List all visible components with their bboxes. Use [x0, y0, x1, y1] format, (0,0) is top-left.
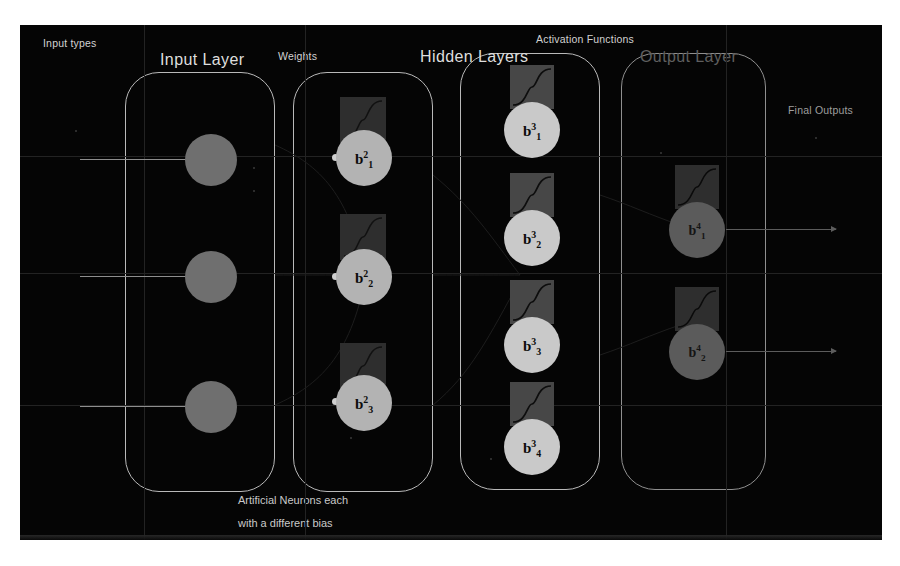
decorative-speck [660, 152, 662, 154]
weight-neuron-subscript: 1 [368, 159, 373, 170]
heading-hidden-layers: Hidden Layers [420, 48, 528, 66]
input-neuron[interactable] [185, 134, 237, 186]
hidden-neuron-subscript: 2 [536, 239, 541, 250]
hidden-neuron[interactable]: b31 [504, 102, 560, 158]
output-arrow [726, 229, 836, 230]
hidden-neuron-label: b31 [523, 124, 541, 139]
output-neuron-label: b41 [688, 224, 705, 238]
weight-neuron-label: b23 [355, 397, 373, 412]
guide-line-vertical [726, 25, 727, 540]
weight-neuron-subscript: 3 [368, 404, 373, 415]
output-layer-group [621, 53, 766, 490]
label-activation-functions: Activation Functions [536, 33, 634, 45]
decorative-speck [75, 130, 77, 132]
label-final-outputs: Final Outputs [788, 104, 853, 116]
input-arrow [80, 159, 195, 160]
heading-input-layer: Input Layer [160, 51, 244, 69]
weight-neuron[interactable]: b22 [336, 249, 392, 305]
decorative-speck [350, 437, 352, 439]
weight-neuron-subscript: 2 [368, 278, 373, 289]
input-arrow [80, 406, 195, 407]
hidden-neuron-subscript: 1 [536, 131, 541, 142]
label-input-types: Input types [43, 37, 97, 49]
guide-line-horizontal [20, 156, 882, 157]
caption-line-1: Artificial Neurons each [238, 489, 348, 512]
hidden-neuron-label: b34 [523, 441, 541, 456]
hidden-neuron[interactable]: b34 [504, 419, 560, 475]
weight-neuron[interactable]: b23 [336, 375, 392, 431]
output-neuron-subscript: 2 [701, 353, 706, 363]
caption-line-2: with a different bias [238, 512, 333, 535]
hidden-neuron-subscript: 3 [536, 346, 541, 357]
output-arrow [726, 351, 836, 352]
output-neuron[interactable]: b42 [669, 324, 725, 380]
decorative-speck [253, 190, 255, 192]
input-neuron[interactable] [185, 251, 237, 303]
hidden-neuron[interactable]: b32 [504, 210, 560, 266]
guide-line-vertical [305, 25, 306, 540]
diagram-canvas: Input Layer Hidden Layers Output Layer I… [0, 0, 900, 566]
hidden-neuron-label: b33 [523, 339, 541, 354]
guide-line-horizontal [20, 273, 882, 274]
decorative-speck [600, 42, 602, 44]
output-neuron-subscript: 1 [701, 231, 706, 241]
guide-line-vertical [144, 25, 145, 540]
hidden-neuron[interactable]: b33 [504, 317, 560, 373]
output-neuron[interactable]: b41 [669, 202, 725, 258]
presentation-panel: Input Layer Hidden Layers Output Layer I… [20, 25, 882, 540]
decorative-speck [490, 458, 492, 460]
label-weights: Weights [278, 50, 317, 62]
weight-neuron-label: b22 [355, 271, 373, 286]
decorative-speck [815, 137, 817, 139]
output-neuron-label: b42 [688, 346, 705, 360]
hidden-neuron-label: b32 [523, 232, 541, 247]
hidden-neuron-subscript: 4 [536, 448, 541, 459]
decorative-speck [253, 167, 255, 169]
input-arrow [80, 276, 195, 277]
input-neuron[interactable] [185, 381, 237, 433]
heading-output-layer: Output Layer [640, 48, 737, 66]
weight-neuron-label: b21 [355, 152, 373, 167]
weight-neuron[interactable]: b21 [336, 130, 392, 186]
